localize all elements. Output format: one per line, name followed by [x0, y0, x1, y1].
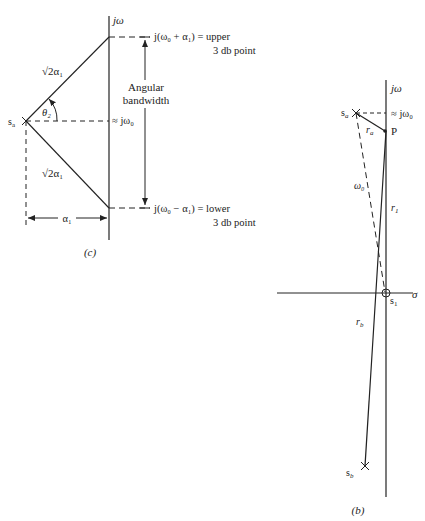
b-axis-label: jω: [389, 82, 402, 94]
c-caption: (c): [84, 246, 97, 259]
c-lower-point-label: j(ω₀ − α₁) = lower: [153, 203, 230, 215]
b-r1-label: r1: [391, 202, 398, 215]
b-ra-label: ra: [366, 124, 374, 137]
c-bandwidth-label-1: Angular: [128, 81, 164, 93]
figure-c: jω sa Angular bandwidth j(ω₀ + α₁) = upp…: [8, 14, 256, 259]
c-axis-label: jω: [111, 14, 124, 26]
b-point-label: P: [391, 125, 397, 137]
pole-zero-diagrams: jω sa Angular bandwidth j(ω₀ + α₁) = upp…: [0, 0, 425, 521]
b-center-label: ≈ jω₀: [391, 108, 413, 119]
b-omega-label: ω₀: [354, 180, 365, 191]
b-rb-label: rb: [356, 316, 364, 329]
b-zero-label: s1: [390, 295, 398, 308]
b-rb-vector: [365, 131, 386, 466]
figure-canvas: jω sa Angular bandwidth j(ω₀ + α₁) = upp…: [0, 0, 425, 521]
b-pole-a-label: sa: [341, 107, 349, 120]
b-caption: (b): [352, 504, 365, 517]
b-omega-dashed: [356, 113, 385, 292]
c-upper-point-label-2: 3 db point: [213, 45, 256, 56]
c-bandwidth-label-2: bandwidth: [123, 94, 170, 106]
c-upper-segment-label: √2α₁: [42, 65, 63, 77]
c-angle-label: θ₂: [42, 107, 51, 118]
c-upper-point-label: j(ω₀ + α₁) = upper: [153, 31, 230, 43]
c-lower-point-label-2: 3 db point: [213, 217, 256, 228]
c-center-label: ≈ jω₀: [112, 115, 134, 126]
c-alpha-label: α₁: [62, 213, 71, 224]
c-lower-segment-label: √2α₁: [42, 167, 63, 179]
b-real-axis-label: σ: [412, 288, 418, 300]
figure-b: jω σ sa ≈ jω₀ P ra ω₀ r1 s1 sb: [277, 80, 418, 517]
c-pole-label: sa: [8, 116, 16, 129]
b-pole-b-label: sb: [346, 467, 354, 480]
c-upper-segment: [26, 37, 109, 121]
c-lower-segment: [26, 121, 109, 208]
